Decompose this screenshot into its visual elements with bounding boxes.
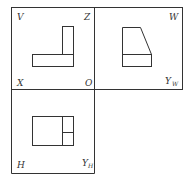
label-yw: Y	[165, 76, 172, 86]
label-yw-sub: W	[172, 80, 179, 87]
front-vertical-block	[63, 27, 74, 55]
label-v: V	[17, 12, 25, 22]
top-view	[33, 117, 74, 146]
label-h: H	[16, 160, 25, 170]
front-horizontal-block	[33, 55, 74, 67]
side-view	[123, 28, 152, 67]
top-outline	[33, 117, 74, 146]
label-yh-sub: H	[87, 162, 94, 169]
label-z: Z	[83, 12, 91, 22]
front-view	[33, 27, 74, 67]
side-trapezoid	[123, 28, 152, 55]
label-o: O	[85, 78, 93, 88]
projection-frame	[12, 8, 183, 174]
side-base	[123, 55, 152, 67]
projection-diagram: V Z X O W Y W H Y H	[0, 0, 188, 182]
upper-frame	[12, 8, 183, 90]
label-w: W	[169, 12, 179, 22]
label-x: X	[16, 78, 24, 88]
